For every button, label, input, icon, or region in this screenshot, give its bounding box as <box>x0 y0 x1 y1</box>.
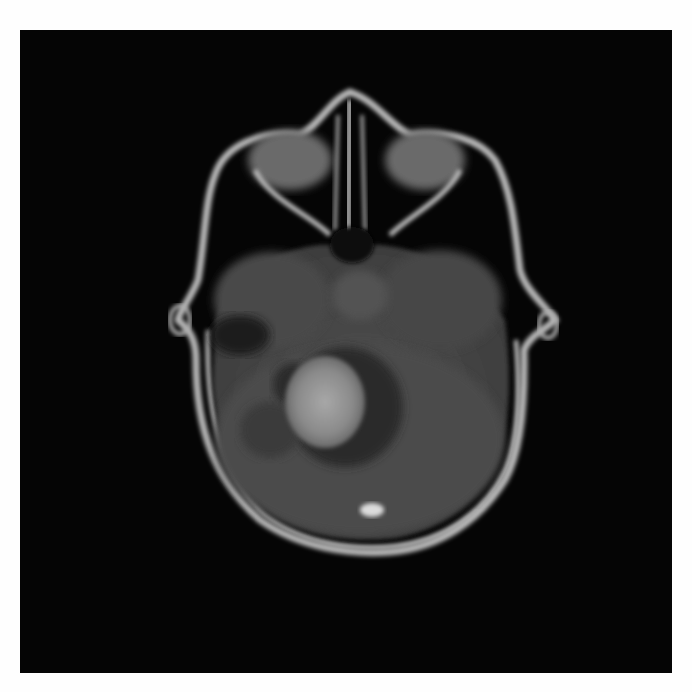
lesion-enhancing-mass <box>285 356 365 448</box>
occipital-bright-spot <box>360 503 384 517</box>
mri-scan <box>0 0 692 692</box>
nasal-septum <box>348 100 350 235</box>
brainstem <box>332 270 388 320</box>
right-temporal-lobe <box>378 250 502 350</box>
sphenoid-sinus <box>330 227 374 263</box>
